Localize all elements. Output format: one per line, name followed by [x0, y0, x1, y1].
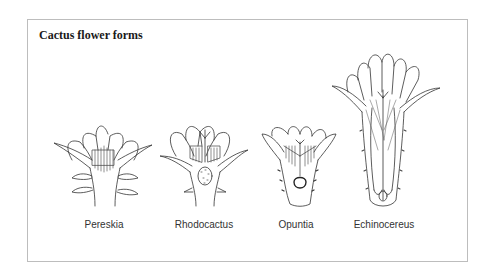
- opuntia-flower-drawing: [262, 127, 336, 207]
- rhodocactus-flower-drawing: [160, 126, 248, 206]
- label-pereskia: Pereskia: [85, 219, 124, 230]
- label-rhodocactus: Rhodocactus: [175, 219, 233, 230]
- pereskia-flower-drawing: [54, 126, 152, 206]
- label-opuntia: Opuntia: [278, 219, 313, 230]
- echinocereus-flower-drawing: [332, 54, 440, 206]
- flower-illustrations: [0, 0, 495, 278]
- label-echinocereus: Echinocereus: [354, 219, 415, 230]
